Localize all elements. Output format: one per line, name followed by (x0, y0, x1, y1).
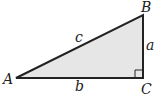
vertex-label-c: C (141, 81, 152, 97)
side-label-b: b (75, 78, 84, 94)
vertex-label-b: B (140, 0, 151, 15)
triangle-shape (16, 15, 143, 78)
right-triangle-diagram: A B C c a b (0, 0, 154, 97)
vertex-label-a: A (1, 71, 13, 87)
side-label-a: a (146, 37, 154, 53)
side-label-c: c (75, 29, 83, 45)
